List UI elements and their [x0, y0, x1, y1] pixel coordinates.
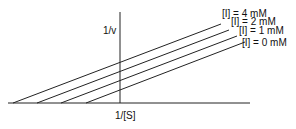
series-line-1 [37, 30, 229, 103]
series-line-2 [61, 36, 237, 103]
lineweaver-burk-chart: 1/v 1/[S] [I] = 4 mM [I] = 2 mM [I] = 1 … [0, 0, 296, 129]
legend-label-0mM: [I] = 0 mM [242, 37, 287, 48]
x-axis-label: 1/[S] [115, 110, 136, 121]
legend-label-1mM: [I] = 1 mM [239, 25, 284, 36]
y-axis-label: 1/v [103, 25, 116, 36]
series-line-3 [86, 42, 245, 103]
